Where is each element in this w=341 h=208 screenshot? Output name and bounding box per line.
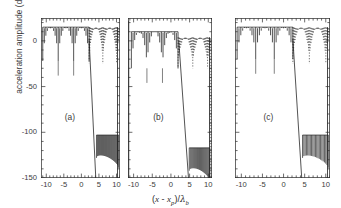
- x-tick-label: 5: [298, 181, 312, 189]
- y-axis-title: acceleration amplitude (dB): [15, 0, 24, 113]
- dotted-envelope: [293, 27, 329, 64]
- x-axis-title-text: (x - xp)/λb: [152, 194, 189, 204]
- panel-a: [41, 18, 120, 178]
- x-tick-label: 5: [92, 181, 106, 189]
- x-tick-label: 5: [183, 181, 197, 189]
- x-tick-label: 0: [277, 181, 291, 189]
- spike-train: [237, 27, 293, 74]
- panel-b: [128, 18, 212, 178]
- descent-line: [179, 41, 189, 178]
- x-tick-label: 0: [164, 181, 178, 189]
- lower-spike-cluster: [189, 148, 210, 178]
- descent-line: [293, 39, 302, 178]
- descent-line: [89, 39, 96, 178]
- spike-train: [43, 27, 89, 75]
- lower-spike-cluster: [303, 135, 329, 168]
- x-tick-label: 10: [319, 181, 333, 189]
- axis-frame: [41, 18, 120, 178]
- x-tick-label: -10: [234, 181, 248, 189]
- x-tick-label: -10: [39, 181, 53, 189]
- y-tick-label: -100: [12, 128, 37, 136]
- spike-train: [131, 32, 178, 83]
- dotted-envelope: [89, 27, 119, 64]
- x-tick-label: 10: [201, 181, 215, 189]
- dotted-envelope: [178, 37, 210, 68]
- y-tick-label: -50: [12, 83, 37, 91]
- x-tick-label: -5: [57, 181, 71, 189]
- panel-label: (c): [264, 112, 274, 122]
- x-tick-label: 0: [74, 181, 88, 189]
- lower-spike-cluster: [96, 135, 118, 168]
- panel-label: (a): [65, 112, 75, 122]
- x-tick-label: 10: [109, 181, 123, 189]
- figure-root: acceleration amplitude (dB) 0-50-100-150…: [0, 0, 341, 208]
- x-tick-label: -10: [127, 181, 141, 189]
- x-tick-label: -5: [145, 181, 159, 189]
- x-axis-title: (x - xp)/λb: [0, 194, 341, 206]
- y-tick-label: -150: [12, 174, 37, 182]
- panel-c: [235, 18, 330, 178]
- x-tick-label: -5: [255, 181, 269, 189]
- y-tick-label: 0: [12, 37, 37, 45]
- panel-label: (b): [153, 112, 163, 122]
